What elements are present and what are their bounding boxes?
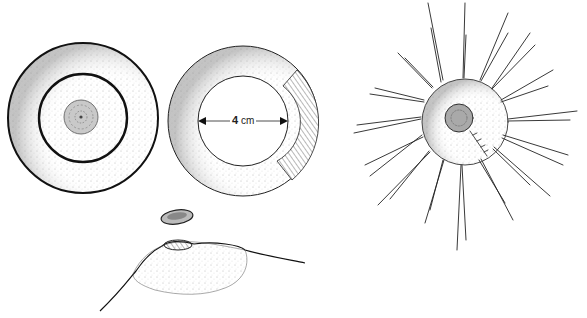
detached-cap xyxy=(160,208,194,226)
mound xyxy=(100,240,305,311)
dimension-value: 4 xyxy=(232,114,238,126)
panel-concentric-rings xyxy=(8,43,158,193)
panel-radiating-spikes xyxy=(354,3,577,250)
dimension-label: 4 cm xyxy=(230,115,256,126)
central-core xyxy=(445,104,473,132)
illustration-canvas xyxy=(0,0,587,318)
dimension-unit: cm xyxy=(241,115,254,126)
panel-side-profile xyxy=(100,208,305,311)
central-core xyxy=(64,100,98,134)
